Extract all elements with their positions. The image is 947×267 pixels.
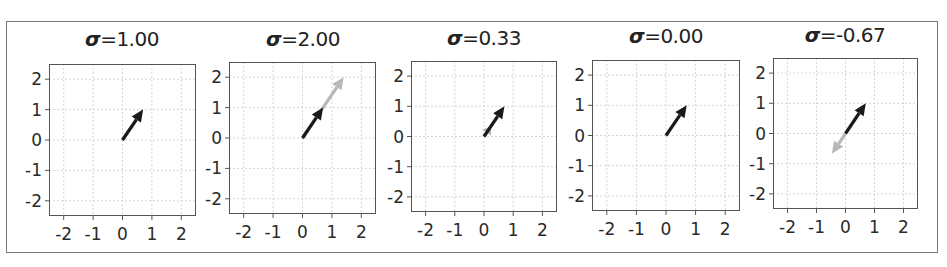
x-tick-label: -2 — [417, 220, 434, 240]
y-tick-label: 1 — [211, 98, 222, 118]
x-tick-label: -2 — [235, 222, 252, 242]
x-tick-label: 2 — [537, 220, 548, 240]
y-tick-label: 0 — [574, 126, 585, 146]
x-tick-label: 2 — [356, 222, 367, 242]
x-tick-label: -2 — [598, 219, 615, 239]
y-tick-label: -2 — [749, 184, 766, 204]
x-tick-label: 0 — [117, 224, 128, 244]
y-tick-label: 0 — [31, 130, 42, 150]
y-tick-label: -1 — [25, 160, 42, 180]
x-tick-label: 2 — [898, 217, 909, 237]
x-tick-label: -1 — [265, 222, 282, 242]
x-tick-label: 2 — [720, 219, 731, 239]
y-tick-label: -1 — [387, 157, 404, 177]
x-tick-label: -1 — [628, 219, 645, 239]
subplot-2: -2-1012210-1-2 — [229, 62, 376, 214]
x-tick-label: 1 — [146, 224, 157, 244]
y-tick-label: -1 — [205, 158, 222, 178]
base-vector-arrow — [303, 108, 324, 138]
x-tick-label: 1 — [690, 219, 701, 239]
scaled-vector-arrow — [832, 134, 846, 154]
x-tick-label: 0 — [479, 220, 490, 240]
y-tick-label: 1 — [31, 100, 42, 120]
y-tick-label: -2 — [205, 189, 222, 209]
sigma-symbol: σ — [629, 24, 644, 48]
y-tick-label: -1 — [568, 156, 585, 176]
x-tick-label: 2 — [176, 224, 187, 244]
subplot-1: -2-1012210-1-2 — [49, 64, 196, 216]
x-tick-label: -1 — [808, 217, 825, 237]
sigma-symbol: σ — [447, 26, 462, 50]
y-tick-label: 0 — [211, 128, 222, 148]
sigma-symbol: σ — [805, 23, 820, 47]
subplot-title: σ=2.00 — [266, 27, 340, 51]
sigma-value: =1.00 — [100, 27, 159, 51]
x-tick-label: -2 — [55, 224, 72, 244]
x-tick-label: -1 — [446, 220, 463, 240]
y-tick-label: 2 — [31, 69, 42, 89]
x-tick-label: 0 — [297, 222, 308, 242]
subplot-title: σ=1.00 — [85, 27, 159, 51]
x-tick-label: -1 — [85, 224, 102, 244]
y-tick-label: -1 — [749, 154, 766, 174]
y-tick-label: -2 — [387, 187, 404, 207]
base-vector-arrow — [666, 105, 687, 135]
base-vector-arrow — [484, 106, 504, 136]
y-tick-label: 2 — [755, 63, 766, 83]
y-tick-label: 0 — [755, 124, 766, 144]
y-tick-label: 1 — [574, 95, 585, 115]
y-tick-label: 1 — [755, 93, 766, 113]
x-tick-label: -2 — [779, 217, 796, 237]
sigma-value: =0.00 — [644, 24, 703, 48]
x-tick-label: 1 — [869, 217, 880, 237]
x-tick-label: 0 — [661, 219, 672, 239]
y-tick-label: -2 — [568, 186, 585, 206]
y-tick-label: 2 — [393, 66, 404, 86]
y-tick-label: 2 — [574, 65, 585, 85]
sigma-value: =-0.67 — [820, 23, 886, 47]
x-tick-label: 1 — [508, 220, 519, 240]
subplot-5: -2-1012210-1-2 — [773, 58, 918, 209]
y-tick-label: -2 — [25, 191, 42, 211]
sigma-symbol: σ — [266, 27, 281, 51]
subplot-3: -2-1012210-1-2 — [411, 61, 557, 212]
sigma-value: =2.00 — [281, 27, 340, 51]
subplot-title: σ=0.00 — [629, 24, 703, 48]
base-vector-arrow — [846, 103, 866, 133]
sigma-symbol: σ — [85, 27, 100, 51]
x-tick-label: 1 — [326, 222, 337, 242]
subplot-title: σ=-0.67 — [805, 23, 886, 47]
subplot-4: -2-1012210-1-2 — [592, 60, 740, 211]
base-vector-arrow — [123, 110, 144, 140]
y-tick-label: 2 — [211, 67, 222, 87]
subplot-title: σ=0.33 — [447, 26, 521, 50]
y-tick-label: 1 — [393, 96, 404, 116]
x-tick-label: 0 — [840, 217, 851, 237]
sigma-value: =0.33 — [462, 26, 521, 50]
y-tick-label: 0 — [393, 127, 404, 147]
